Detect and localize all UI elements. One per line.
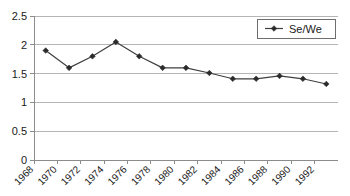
data-point-marker (160, 65, 166, 71)
data-point-marker (136, 54, 142, 60)
data-point-marker (230, 76, 236, 82)
data-point-marker (183, 65, 189, 71)
data-point-marker (207, 70, 213, 76)
data-point-marker (324, 81, 330, 87)
x-tick-label: 1980 (152, 163, 176, 187)
x-tick-label: 1988 (246, 163, 270, 187)
data-point-marker (113, 39, 119, 45)
data-point-marker (253, 76, 259, 82)
x-tick-label: 1970 (35, 163, 59, 187)
data-point-marker (300, 76, 306, 82)
y-tick-label: 2 (21, 39, 27, 51)
line-chart: 00.511.522.51968197019721974197619781980… (0, 0, 350, 196)
legend: Se/We (257, 19, 335, 38)
y-axis-ticks: 00.511.522.5 (12, 10, 34, 166)
series-1 (43, 39, 329, 87)
x-tick-label: 1978 (129, 163, 153, 187)
x-tick-label: 1990 (269, 163, 293, 187)
series-line (46, 42, 327, 84)
y-tick-label: 0.5 (12, 125, 27, 137)
x-tick-label: 1982 (176, 163, 200, 187)
x-tick-label: 1992 (293, 163, 317, 187)
x-tick-label: 1968 (12, 163, 36, 187)
x-tick-label: 1974 (82, 163, 106, 187)
y-tick-label: 1.5 (12, 68, 27, 80)
x-tick-label: 1976 (105, 163, 129, 187)
y-tick-label: 2.5 (12, 10, 27, 22)
chart-canvas: 00.511.522.51968197019721974197619781980… (0, 0, 350, 196)
data-point-marker (90, 54, 96, 60)
x-tick-label: 1984 (199, 163, 223, 187)
legend-label: Se/We (289, 23, 322, 35)
y-tick-label: 1 (21, 96, 27, 108)
x-tick-label: 1986 (222, 163, 246, 187)
x-tick-label: 1972 (59, 163, 83, 187)
x-axis-ticks: 1968197019721974197619781980198219841986… (12, 160, 316, 187)
